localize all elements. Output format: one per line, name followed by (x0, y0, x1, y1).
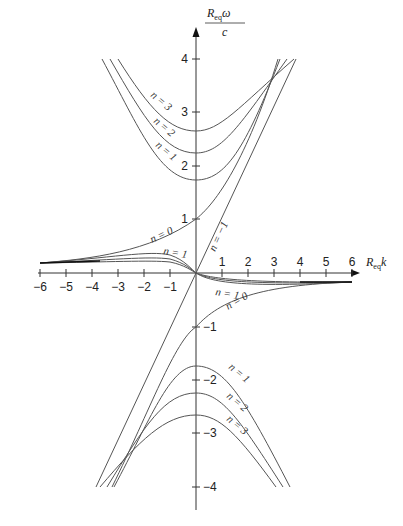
annotation: n = 1 (227, 360, 253, 385)
x-tick-label: 1 (219, 255, 226, 269)
curve-n1-upper (102, 59, 280, 180)
x-tick-label: −6 (33, 280, 47, 294)
y-tick-label: −4 (203, 480, 217, 494)
annotation: n = 0 (148, 224, 175, 245)
svg-text:Reqω: Reqω (206, 6, 230, 22)
y-tick-label: 2 (181, 159, 188, 173)
svg-text:Reqk: Reqk (365, 255, 387, 271)
x-tick-label: 3 (271, 255, 278, 269)
x-tick-label: 4 (297, 255, 304, 269)
svg-text:c: c (222, 25, 228, 39)
x-tick-label: −3 (111, 280, 125, 294)
x-tick-label: −5 (59, 280, 73, 294)
x-tick-label: −2 (137, 280, 151, 294)
x-axis-label: Reqk (365, 255, 387, 271)
x-tick-label: −1 (163, 280, 177, 294)
y-tick-label: −3 (203, 426, 217, 440)
annotation: n = −1 (206, 219, 230, 252)
annotation: n = 2 (152, 114, 178, 139)
x-tick-label: 2 (245, 255, 252, 269)
y-tick-label: 3 (181, 105, 188, 119)
y-tick-label: 4 (181, 52, 188, 66)
x-tick-label: 5 (323, 255, 330, 269)
annotation: n = 1 (154, 138, 180, 163)
dispersion-chart: −6 −5 −4 −3 −2 −1 1 2 3 4 5 6 4 3 2 1 −1… (0, 0, 403, 526)
y-axis-label: Reqω c (205, 6, 245, 39)
y-tick-label: −1 (203, 320, 217, 334)
x-tick-label: −4 (85, 280, 99, 294)
y-tick-label: −2 (203, 373, 217, 387)
annotation: n = 1 (163, 244, 189, 260)
x-tick-label: 6 (349, 255, 356, 269)
curve-n0-lower (112, 282, 352, 487)
y-axis-arrow-icon (193, 27, 200, 37)
y-tick-label: 1 (181, 212, 188, 226)
annotation: n = 3 (149, 88, 175, 113)
axes (38, 27, 360, 510)
